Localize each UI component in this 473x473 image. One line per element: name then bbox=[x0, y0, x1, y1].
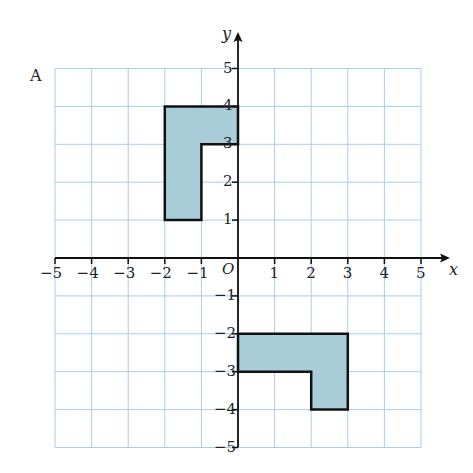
y-axis-label: y bbox=[222, 24, 231, 43]
figure-label: A bbox=[30, 66, 42, 85]
x-tick-label: −2 bbox=[150, 264, 172, 282]
y-tick-label: −1 bbox=[214, 286, 236, 304]
y-tick-label: −2 bbox=[214, 324, 236, 342]
x-tick-label: 1 bbox=[270, 264, 280, 282]
y-tick-label: 4 bbox=[223, 96, 233, 114]
y-tick-label: −3 bbox=[214, 362, 236, 380]
x-tick-label: 5 bbox=[416, 264, 426, 282]
x-tick-label: 3 bbox=[343, 264, 353, 282]
y-tick-label: 1 bbox=[223, 210, 233, 228]
x-tick-label: 4 bbox=[379, 264, 389, 282]
shape-polygon bbox=[238, 334, 348, 410]
x-tick-label: −3 bbox=[113, 264, 135, 282]
x-tick-label: −1 bbox=[186, 264, 208, 282]
y-tick-label: 3 bbox=[223, 134, 233, 152]
y-tick-label: 5 bbox=[223, 59, 233, 77]
y-tick-label: −5 bbox=[214, 438, 236, 456]
x-tick-label: 2 bbox=[306, 264, 316, 282]
x-tick-label: −5 bbox=[40, 264, 62, 282]
shape-polygon bbox=[165, 106, 238, 220]
x-tick-label: −4 bbox=[77, 264, 99, 282]
coordinate-grid bbox=[0, 0, 473, 473]
y-tick-label: −4 bbox=[214, 400, 236, 418]
x-axis-label: x bbox=[449, 260, 458, 279]
y-tick-label: 2 bbox=[223, 172, 233, 190]
origin-label: O bbox=[222, 260, 234, 278]
